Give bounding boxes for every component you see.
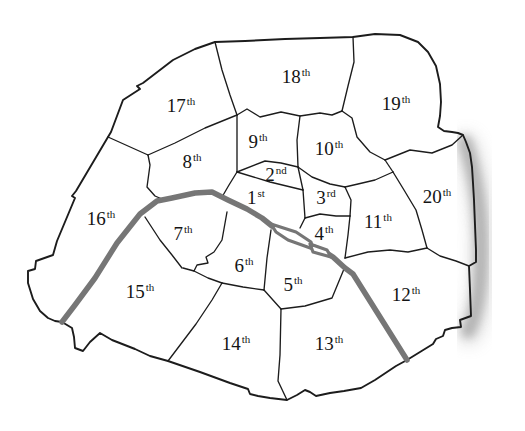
district-label-16th: 16th xyxy=(87,208,116,229)
district-label-19th: 19th xyxy=(382,93,411,114)
map-canvas: 1st2nd3rd4th5th6th7th8th9th10th11th12th1… xyxy=(0,0,525,431)
district-label-18th: 18th xyxy=(282,66,311,87)
ile-saint-louis xyxy=(310,244,331,257)
district-label-7th: 7th xyxy=(173,223,193,244)
page-shadow xyxy=(465,142,483,333)
district-label-12th: 12th xyxy=(392,284,421,305)
district-label-10th: 10th xyxy=(315,138,344,159)
district-label-20th: 20th xyxy=(423,186,452,207)
ile-de-la-cite xyxy=(271,224,313,249)
district-label-15th: 15th xyxy=(126,281,155,302)
district-label-11th: 11th xyxy=(364,211,392,232)
district-label-5th: 5th xyxy=(283,274,303,295)
district-label-2nd: 2nd xyxy=(265,164,287,185)
district-label-3rd: 3rd xyxy=(316,187,336,208)
district-label-9th: 9th xyxy=(248,131,268,152)
district-label-6th: 6th xyxy=(234,255,254,276)
district-label-1st: 1st xyxy=(247,187,265,208)
district-label-17th: 17th xyxy=(167,95,196,116)
district-borders xyxy=(108,37,469,400)
district-label-13th: 13th xyxy=(315,333,344,354)
district-label-4th: 4th xyxy=(314,223,334,244)
paris-arrondissement-map: 1st2nd3rd4th5th6th7th8th9th10th11th12th1… xyxy=(0,0,525,431)
district-label-8th: 8th xyxy=(182,151,202,172)
district-label-14th: 14th xyxy=(222,333,251,354)
